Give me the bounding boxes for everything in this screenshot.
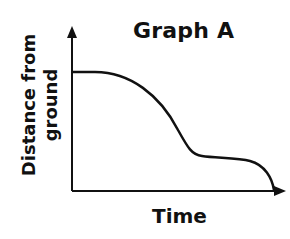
chart-plot — [0, 0, 290, 239]
x-axis-arrow-icon — [274, 186, 286, 196]
y-axis-arrow-icon — [67, 26, 77, 38]
x-axis-label: Time — [152, 204, 207, 228]
data-line — [72, 72, 274, 190]
